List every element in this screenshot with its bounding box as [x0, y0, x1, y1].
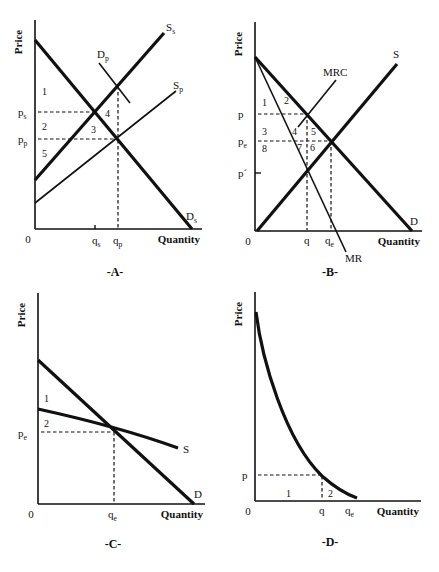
- region-number-label: 2: [42, 121, 47, 132]
- region-number-label: 2: [44, 418, 49, 429]
- panel-title: -D-: [322, 535, 339, 549]
- region-number-label: 2: [284, 95, 289, 106]
- quantity-level-label: qe: [345, 504, 355, 519]
- curve-dp-label: Dp: [97, 48, 109, 63]
- curve-ss-label: Ss: [166, 21, 175, 36]
- x-axis-label: Quantity: [158, 233, 201, 245]
- region-number-label: 6: [310, 142, 315, 153]
- quantity-level-label: qe: [325, 234, 335, 249]
- region-number-label: 1: [42, 86, 47, 97]
- origin-label: 0: [245, 235, 251, 247]
- quantity-level-label: qp: [113, 234, 123, 249]
- curve-mrc-label: MRC: [323, 66, 347, 78]
- quantity-level-label: qe: [108, 508, 118, 523]
- region-number-label: 4: [292, 126, 297, 137]
- region-number-label: 1: [262, 97, 267, 108]
- panel-title: -A-: [107, 265, 124, 279]
- panel-d: PriceQuantity0pqqe12-D-: [232, 292, 421, 549]
- panel-a: PriceQuantity0DsSsSpDppsppqsqp14235-A-: [12, 20, 202, 279]
- x-axis-label: Quantity: [161, 508, 204, 520]
- curve-mrc: [298, 80, 336, 127]
- price-level-label: pp: [18, 133, 28, 148]
- quantity-level-label: q: [319, 504, 325, 516]
- curve-demand: [256, 312, 357, 498]
- curve-d-label: D: [194, 488, 202, 500]
- origin-label: 0: [25, 233, 31, 245]
- region-number-label: 3: [91, 124, 96, 135]
- curve-mr-label: MR: [345, 252, 363, 264]
- curve-mr: [255, 57, 346, 252]
- y-axis-label: Price: [15, 303, 27, 328]
- quantity-level-label: q: [304, 234, 310, 246]
- region-number-label: 2: [328, 488, 333, 499]
- panel-b: PriceQuantity0DSMRMRCppep´qqe12345876-B-: [232, 22, 422, 279]
- price-level-label: p´: [238, 167, 248, 179]
- price-level-label: ps: [18, 106, 27, 121]
- quantity-level-label: qs: [92, 234, 101, 249]
- x-axis-label: Quantity: [378, 235, 421, 247]
- region-number-label: 7: [297, 142, 302, 153]
- curve-d-label: D: [410, 215, 418, 227]
- y-axis-label: Price: [232, 302, 244, 327]
- price-level-label: pe: [238, 135, 248, 150]
- region-number-label: 8: [262, 143, 267, 154]
- curve-s-label: S: [393, 48, 399, 60]
- economics-diagram-figure: PriceQuantity0DsSsSpDppsppqsqp14235-A-Pr…: [0, 0, 439, 572]
- origin-label: 0: [245, 505, 251, 517]
- region-number-label: 1: [44, 393, 49, 404]
- panel-c: PriceQuantity0DSpeqe12-C-: [15, 293, 205, 551]
- origin-label: 0: [28, 508, 34, 520]
- x-axis-label: Quantity: [377, 505, 420, 517]
- curve-s: [257, 64, 397, 231]
- curve-s: [38, 409, 178, 448]
- price-level-label: p: [242, 469, 248, 481]
- panel-title: -C-: [105, 537, 122, 551]
- region-number-label: 5: [42, 148, 47, 159]
- curve-dp: [99, 63, 130, 103]
- region-number-label: 4: [105, 108, 110, 119]
- panel-title: -B-: [322, 265, 338, 279]
- region-number-label: 5: [311, 126, 316, 137]
- region-number-label: 3: [262, 126, 267, 137]
- price-level-label: p: [238, 108, 244, 120]
- curve-ds: [35, 40, 192, 229]
- price-level-label: pe: [18, 427, 28, 442]
- curve-s-label: S: [183, 443, 189, 455]
- y-axis-label: Price: [232, 32, 244, 57]
- region-number-label: 1: [286, 488, 291, 499]
- y-axis-label: Price: [12, 30, 24, 55]
